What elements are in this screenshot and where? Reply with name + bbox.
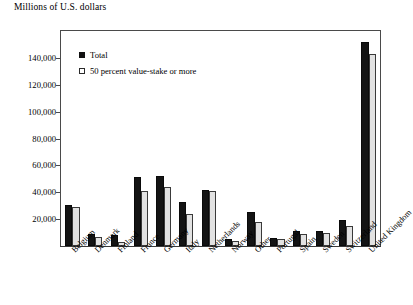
y-tick-label: 140,000 (28, 53, 56, 63)
bar-stake (164, 187, 171, 246)
bar-group (225, 31, 239, 246)
y-tick-label: 40,000 (32, 187, 56, 197)
y-tick-label: 80,000 (32, 134, 56, 144)
bar-group (316, 31, 330, 246)
bar-group (361, 31, 375, 246)
bar-total (361, 42, 368, 246)
bar-group (339, 31, 353, 246)
bar-group (179, 31, 193, 246)
bar-total (202, 190, 209, 246)
bar-total (316, 231, 323, 246)
bar-group (88, 31, 102, 246)
bar-total (65, 205, 72, 246)
bar-group (134, 31, 148, 246)
bar-group (65, 31, 79, 246)
y-tick-label: 20,000 (32, 214, 56, 224)
x-axis-labels: BelgiumDenmarkFinlandFranceGermanyItalyN… (0, 248, 402, 305)
y-tick-label: 120,000 (28, 80, 56, 90)
bar-group (111, 31, 125, 246)
bar-stake (141, 191, 148, 246)
bar-stake (369, 54, 376, 246)
chart-axis-title: Millions of U.S. dollars (14, 2, 106, 12)
y-tick-label: 100,000 (28, 107, 56, 117)
bar-group (270, 31, 284, 246)
y-tick-label: 60,000 (32, 160, 56, 170)
bar-group (247, 31, 261, 246)
bar-stake (209, 191, 216, 246)
bar-groups (61, 31, 380, 246)
bar-group (293, 31, 307, 246)
bar-group (156, 31, 170, 246)
bar-group (202, 31, 216, 246)
